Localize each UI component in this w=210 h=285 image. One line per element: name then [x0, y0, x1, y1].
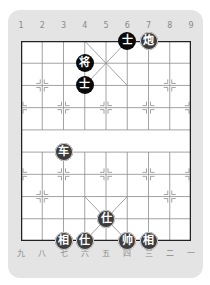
column-label-top-5: 5 — [99, 21, 113, 31]
column-label-bottom-6: 四 — [120, 249, 134, 259]
column-label-bottom-8: 二 — [163, 249, 177, 259]
column-label-top-1: 1 — [14, 21, 28, 31]
piece-red-仕[interactable]: 仕 — [76, 232, 94, 250]
column-label-bottom-2: 八 — [35, 249, 49, 259]
piece-red-相[interactable]: 相 — [55, 232, 73, 250]
column-label-top-8: 8 — [163, 21, 177, 31]
piece-red-炮[interactable]: 炮 — [140, 32, 158, 50]
column-label-bottom-9: 一 — [184, 249, 198, 259]
piece-red-相[interactable]: 相 — [140, 232, 158, 250]
column-label-bottom-3: 七 — [57, 249, 71, 259]
column-label-bottom-5: 五 — [99, 249, 113, 259]
column-label-bottom-1: 九 — [14, 249, 28, 259]
column-label-top-7: 7 — [142, 21, 156, 31]
column-label-top-3: 3 — [57, 21, 71, 31]
column-label-top-9: 9 — [184, 21, 198, 31]
column-label-bottom-7: 三 — [142, 249, 156, 259]
piece-red-车[interactable]: 车 — [55, 143, 73, 161]
column-label-top-6: 6 — [120, 21, 134, 31]
piece-red-仕[interactable]: 仕 — [97, 210, 115, 228]
column-label-top-2: 2 — [35, 21, 49, 31]
column-label-top-4: 4 — [78, 21, 92, 31]
piece-black-将[interactable]: 将 — [76, 54, 94, 72]
column-label-bottom-4: 六 — [78, 249, 92, 259]
